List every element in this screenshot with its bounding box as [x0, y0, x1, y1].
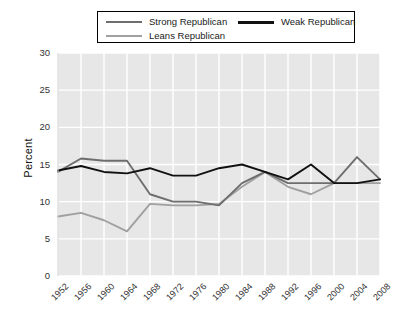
y-tick-label: 15	[22, 160, 50, 169]
y-tick-label: 0	[22, 271, 50, 280]
y-tick-label: 30	[22, 48, 50, 57]
y-tick-label: 25	[22, 85, 50, 94]
y-tick-label: 20	[22, 122, 50, 131]
y-tick-label: 5	[22, 234, 50, 243]
y-tick-label: 10	[22, 197, 50, 206]
chart-figure: Strong Republican Leans Republican Weak …	[0, 0, 414, 320]
plot-area	[0, 0, 414, 320]
